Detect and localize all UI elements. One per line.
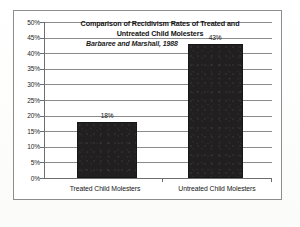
bar-untreated-child-molesters[interactable] — [188, 44, 243, 178]
ytick-25: 25% — [12, 97, 40, 104]
ytick-0: 0% — [12, 175, 40, 182]
category-end-tick — [271, 178, 272, 182]
ytick-5: 5% — [12, 159, 40, 166]
ytick-label: 5% — [14, 159, 40, 166]
chart-title: Comparison of Recidivism Rates of Treate… — [52, 19, 268, 38]
ytick-label: 10% — [14, 143, 40, 150]
scanned-chart-page: 50% 45% 40% 35% 30% 25% 20% 15% — [0, 0, 300, 227]
chart-title-line-1: Comparison of Recidivism Rates of Treate… — [81, 19, 240, 28]
chart-title-line-2: Untreated Child Molesters — [117, 29, 204, 38]
ytick-label: 15% — [14, 128, 40, 135]
ytick-label: 25% — [14, 97, 40, 104]
ytick-label: 35% — [14, 65, 40, 72]
bar-value-label: 18% — [82, 112, 132, 120]
category-label-treated: Treated Child Molesters — [48, 184, 162, 193]
chart-source-citation: Barbaree and Marshall, 1988 — [52, 39, 212, 48]
ytick-50: 50% — [12, 19, 40, 26]
category-label-untreated: Untreated Child Molesters — [160, 184, 274, 193]
ytick-20: 20% — [12, 112, 40, 119]
ytick-15: 15% — [12, 128, 40, 135]
ytick-label: 0% — [14, 175, 40, 182]
y-axis-line — [44, 22, 45, 179]
bar-chart-plot: 50% 45% 40% 35% 30% 25% 20% 15% — [0, 0, 300, 227]
ytick-label: 20% — [14, 112, 40, 119]
ytick-40: 40% — [12, 50, 40, 57]
ytick-10: 10% — [12, 143, 40, 150]
ytick-35: 35% — [12, 65, 40, 72]
ytick-45: 45% — [12, 34, 40, 41]
ytick-label: 30% — [14, 81, 40, 88]
x-axis-line — [44, 178, 272, 179]
ytick-label: 40% — [14, 50, 40, 57]
bar-treated-child-molesters[interactable] — [77, 122, 137, 178]
ytick-label: 45% — [14, 34, 40, 41]
ytick-label: 50% — [14, 19, 40, 26]
ytick-30: 30% — [12, 81, 40, 88]
category-divider-tick — [162, 178, 163, 182]
